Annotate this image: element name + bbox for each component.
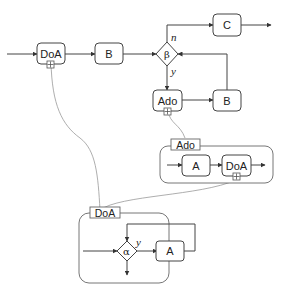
- b2-node-label: B: [223, 95, 230, 107]
- doa-node-label: DoA: [40, 48, 62, 60]
- doa-node[interactable]: DoA: [37, 43, 65, 68]
- diagram-canvas: DoA B β n C y Ado: [0, 0, 292, 296]
- beta-decision[interactable]: β: [156, 42, 178, 66]
- b2-node[interactable]: B: [213, 90, 241, 111]
- c-node-label: C: [223, 19, 231, 31]
- expansion-link-doa: [51, 62, 100, 210]
- a-node-2-label: A: [166, 245, 174, 257]
- a-node[interactable]: A: [182, 155, 210, 176]
- branch-n-label: n: [171, 31, 177, 43]
- inner-doa-node[interactable]: DoA: [222, 155, 251, 180]
- main-flow: DoA B β n C y Ado: [7, 14, 271, 115]
- ado-node-label: Ado: [158, 95, 178, 107]
- branch-y-label: y: [135, 236, 141, 248]
- ado-expansion-title: Ado: [176, 139, 195, 151]
- branch-y-label: y: [170, 65, 176, 77]
- doa-expansion: DoA α y A: [79, 207, 195, 284]
- doa-expansion-title: DoA: [95, 207, 115, 219]
- c-node[interactable]: C: [213, 14, 241, 36]
- a-node-2[interactable]: A: [156, 241, 184, 261]
- a-node-label: A: [192, 160, 200, 172]
- arrow-b2-beta: [178, 54, 227, 90]
- b-node[interactable]: B: [95, 43, 123, 64]
- b-node-label: B: [105, 48, 112, 60]
- expansion-link-doa-inner: [100, 180, 236, 210]
- ado-expansion: Ado A DoA: [160, 139, 273, 184]
- ado-node[interactable]: Ado: [153, 90, 182, 115]
- inner-doa-label: DoA: [226, 160, 248, 172]
- alpha-label: α: [123, 246, 130, 257]
- beta-label: β: [164, 49, 170, 60]
